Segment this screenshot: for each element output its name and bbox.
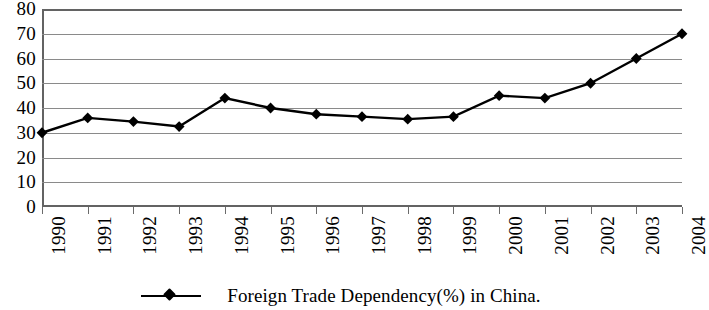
y-tick-label: 80 <box>0 0 36 18</box>
y-tick-label: 30 <box>0 123 36 142</box>
y-tick-label: 70 <box>0 24 36 43</box>
x-tick-label: 1998 <box>415 216 434 255</box>
y-tick-label: 10 <box>0 172 36 191</box>
x-tick <box>271 207 272 214</box>
x-tick <box>453 207 454 214</box>
x-tick <box>133 207 134 214</box>
x-tick <box>179 207 180 214</box>
x-tick-label: 1996 <box>323 216 342 255</box>
x-tick <box>42 207 43 214</box>
y-tick-label: 40 <box>0 98 36 117</box>
x-tick <box>408 207 409 214</box>
x-tick-label: 1994 <box>232 216 251 255</box>
data-point-marker <box>265 103 276 114</box>
data-point-marker <box>402 114 413 125</box>
legend-item-label: Foreign Trade Dependency(%) in China. <box>227 286 540 306</box>
x-tick-label: 1991 <box>95 216 114 255</box>
x-tick <box>682 207 683 214</box>
x-tick-label: 2003 <box>643 216 662 255</box>
y-tick-label: 60 <box>0 49 36 68</box>
x-axis: 1990199119921993199419951996199719981999… <box>42 216 682 278</box>
x-axis-ticks <box>42 207 682 215</box>
x-tick <box>88 207 89 214</box>
series-foreign-trade-dependency <box>42 9 682 207</box>
data-point-marker <box>494 90 505 101</box>
data-point-marker <box>37 127 48 138</box>
line-diamond-marker-icon <box>141 289 201 303</box>
chart-legend: Foreign Trade Dependency(%) in China. <box>0 282 682 310</box>
data-point-marker <box>448 111 459 122</box>
plot-area <box>42 9 682 207</box>
x-tick-label: 1997 <box>369 216 388 255</box>
x-tick-label: 1993 <box>186 216 205 255</box>
data-point-marker <box>677 28 688 39</box>
x-tick-label: 1999 <box>460 216 479 255</box>
x-tick-label: 1990 <box>49 216 68 255</box>
x-tick <box>636 207 637 214</box>
y-tick-label: 50 <box>0 73 36 92</box>
x-tick-label: 1992 <box>140 216 159 255</box>
x-tick <box>591 207 592 214</box>
y-axis: 01020304050607080 <box>0 0 36 216</box>
data-point-marker <box>128 116 139 127</box>
x-tick-label: 2004 <box>689 216 708 255</box>
data-point-marker <box>174 121 185 132</box>
x-tick <box>316 207 317 214</box>
x-tick <box>499 207 500 214</box>
x-tick <box>225 207 226 214</box>
data-point-marker <box>219 93 230 104</box>
data-point-marker <box>585 78 596 89</box>
data-point-marker <box>82 113 93 124</box>
x-tick <box>362 207 363 214</box>
x-tick-label: 2000 <box>506 216 525 255</box>
data-point-marker <box>631 53 642 64</box>
x-tick-label: 2002 <box>598 216 617 255</box>
data-point-marker <box>311 109 322 120</box>
x-tick-label: 2001 <box>552 216 571 255</box>
legend-item: Foreign Trade Dependency(%) in China. <box>141 286 540 306</box>
data-point-marker <box>539 93 550 104</box>
x-tick <box>545 207 546 214</box>
y-tick-label: 20 <box>0 148 36 167</box>
x-tick-label: 1995 <box>278 216 297 255</box>
y-tick-label: 0 <box>0 197 36 216</box>
data-point-marker <box>357 111 368 122</box>
